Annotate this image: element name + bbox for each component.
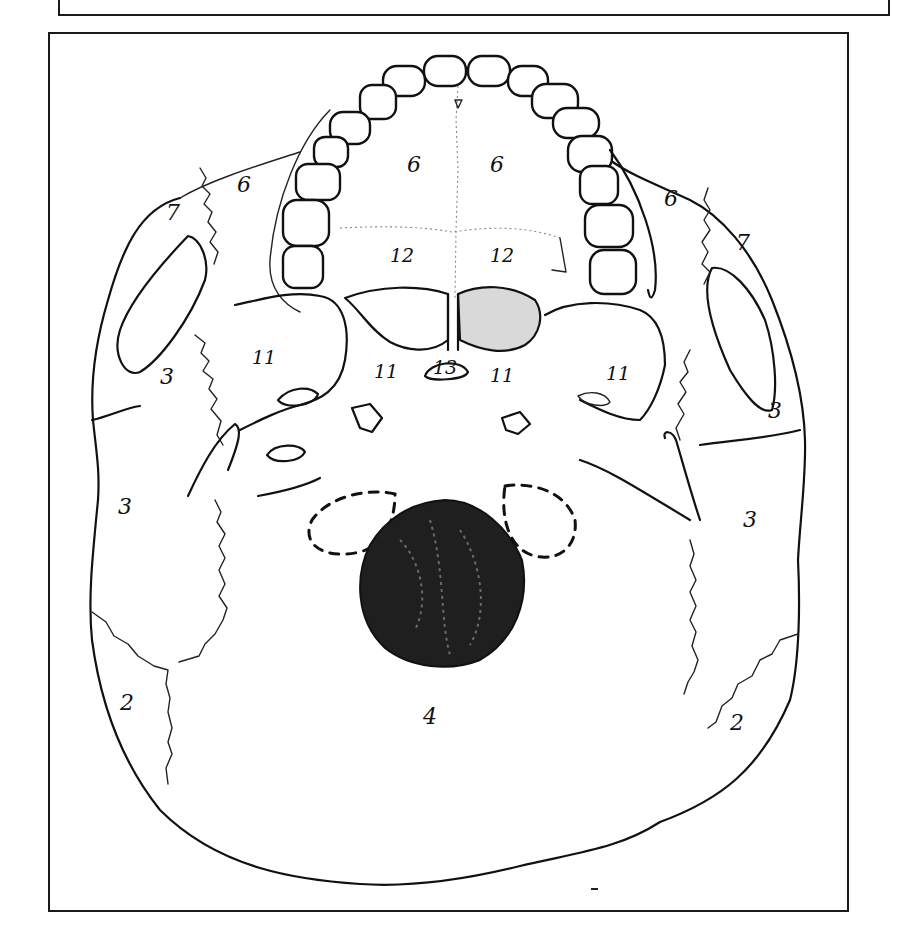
label-11-center-left: 11 [374, 360, 398, 382]
label-2-left: 2 [119, 690, 134, 715]
foramen-ovale-left [278, 389, 318, 406]
label-11-center-right: 11 [490, 364, 514, 386]
label-7-right: 7 [736, 230, 750, 255]
incisive-foramen [455, 100, 462, 108]
label-13: 13 [433, 356, 457, 378]
label-12-right: 12 [490, 244, 514, 266]
choana-left [345, 288, 448, 350]
label-3-left-lower: 3 [118, 494, 132, 519]
label-11-far-right: 11 [606, 362, 630, 384]
suture-right-lambdoid [684, 540, 698, 694]
label-12-left: 12 [390, 244, 414, 266]
suture-left-lambdoid [179, 500, 227, 662]
teeth-upper-arch [283, 56, 636, 294]
foramen-magnum [360, 500, 524, 667]
label-2-right: 2 [729, 710, 744, 735]
temporal-line-right-base [700, 430, 800, 445]
suture-right-6-7 [702, 188, 710, 284]
temporal-line-right [580, 460, 690, 520]
zygomatic-right-outer [707, 268, 775, 411]
occipital-process-right [502, 412, 530, 434]
palatine-right-notch [552, 238, 566, 272]
label-6-right-palatine: 6 [490, 152, 504, 177]
label-4: 4 [422, 704, 437, 729]
vomer [448, 294, 458, 350]
temporal-line-left-base [92, 406, 140, 420]
label-3-right-upper: 3 [768, 398, 782, 423]
median-palatine-suture [455, 86, 458, 300]
transverse-palatine-suture [340, 227, 560, 238]
slit-left [258, 478, 320, 496]
label-7-left: 7 [166, 200, 180, 225]
label-3-left-upper: 3 [160, 364, 174, 389]
foramen-left-lower [267, 446, 305, 462]
label-11-far-left: 11 [252, 346, 276, 368]
zygomatic-left-outer [118, 236, 207, 373]
styloid-left [188, 424, 239, 496]
suture-left-temporal [195, 335, 223, 445]
choana-right [458, 287, 540, 351]
suture-right-temporal [676, 350, 690, 440]
skull-inferior-view-diagram: 6 6 6 6 7 7 12 12 11 11 13 11 11 3 3 3 3… [0, 0, 908, 952]
sphenoid-right [545, 303, 665, 420]
occipital-process-left [352, 404, 382, 432]
label-6-left-palatine: 6 [407, 152, 421, 177]
label-6-left-lateral: 6 [237, 172, 251, 197]
foramen-ovale-right [578, 393, 610, 406]
label-6-right-lateral: 6 [664, 186, 678, 211]
label-3-right-lower: 3 [743, 507, 757, 532]
